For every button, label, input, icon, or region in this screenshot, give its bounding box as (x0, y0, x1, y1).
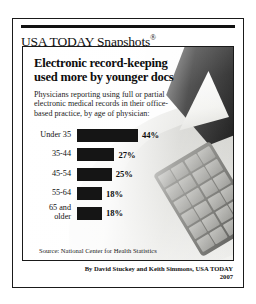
registered-trademark-icon: ® (150, 33, 156, 42)
byline-credit: By David Stuckey and Keith Simmons, USA … (85, 265, 233, 272)
bar-category-label: 45-54 (34, 170, 77, 179)
bar-fill (77, 148, 114, 161)
bar-row: 55-64 18% (34, 185, 223, 202)
bar-fill (77, 187, 102, 200)
bar-fill (77, 207, 102, 220)
chart-title: Electronic record-keeping used more by y… (34, 56, 186, 85)
bar-category-label: 65 and older (34, 204, 77, 222)
bar-track: 27% (77, 148, 223, 161)
panel-content: Electronic record-keeping used more by y… (23, 47, 233, 222)
source-line: Source: National Center for Health Stati… (39, 247, 157, 254)
snapshot-frame: USA TODAY Snapshots® (12, 18, 244, 288)
chart-subtitle: Physicians reporting using full or parti… (34, 90, 182, 119)
bar-row: Under 35 44% (34, 127, 223, 144)
bar-row: 45-54 25% (34, 166, 223, 183)
bar-category-label: Under 35 (34, 131, 77, 140)
byline: By David Stuckey and Keith Simmons, USA … (33, 265, 233, 281)
bar-fill (77, 129, 138, 142)
chart-panel: Electronic record-keeping used more by y… (22, 46, 234, 261)
bar-chart: Under 35 44% 35-44 27% 45-54 (34, 127, 223, 222)
masthead-rule (21, 25, 235, 28)
bar-track: 25% (77, 168, 223, 181)
bar-fill (77, 168, 112, 181)
bar-row: 65 and older 18% (34, 205, 223, 222)
bar-value-label: 18% (102, 208, 123, 218)
bar-track: 18% (77, 187, 223, 200)
bar-category-label: 55-64 (34, 189, 77, 198)
bar-track: 18% (77, 207, 223, 220)
bar-track: 44% (77, 129, 223, 142)
bar-value-label: 27% (114, 150, 135, 160)
byline-year: 2007 (33, 273, 233, 281)
bar-value-label: 18% (102, 189, 123, 199)
bar-value-label: 44% (138, 130, 159, 140)
bar-category-label: 35-44 (34, 150, 77, 159)
bar-row: 35-44 27% (34, 146, 223, 163)
bar-value-label: 25% (112, 169, 133, 179)
